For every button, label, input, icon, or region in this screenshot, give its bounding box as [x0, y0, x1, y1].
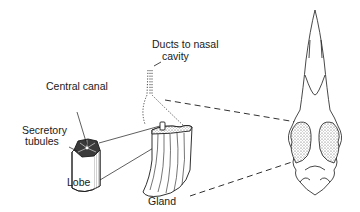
label-gland: Gland	[148, 196, 176, 207]
gland-illustration	[143, 122, 192, 197]
label-central-canal: Central canal	[46, 81, 108, 92]
label-ducts-line1: Ducts to nasal	[152, 39, 219, 50]
duct-pointer	[154, 62, 161, 66]
ducts-illustration	[143, 70, 185, 127]
label-ducts-line2: cavity	[162, 51, 189, 62]
salt-gland-diagram	[0, 0, 360, 212]
skull-illustration	[288, 10, 341, 195]
label-lobe: Lobe	[67, 177, 90, 188]
label-secretory-line2: tubules	[25, 136, 59, 147]
